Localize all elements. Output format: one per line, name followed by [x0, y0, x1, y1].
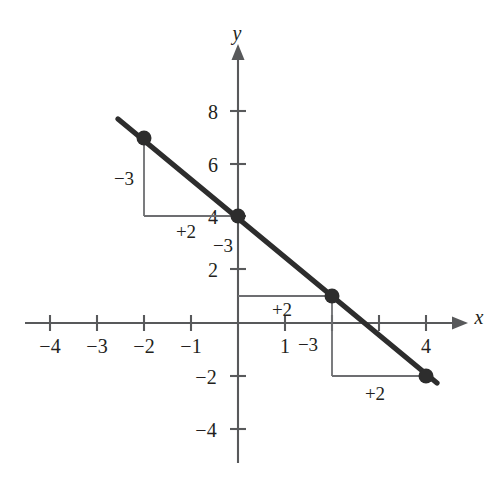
middle-rise-label: −3 — [213, 235, 233, 256]
data-point-0-4 — [231, 209, 246, 224]
x-tick-label-1: 1 — [280, 335, 290, 357]
y-tick-label-8: 8 — [208, 101, 218, 123]
plotted-line — [118, 119, 437, 383]
right-rise-label: −3 — [298, 334, 318, 355]
coordinate-plane-svg: x y −4 −3 −2 −1 1 4 8 — [0, 0, 503, 495]
graph-figure: x y −4 −3 −2 −1 1 4 8 — [0, 0, 503, 495]
x-axis-arrowhead — [452, 317, 468, 330]
data-point-2-1 — [325, 289, 340, 304]
data-point-neg2-7 — [137, 131, 152, 146]
right-run-label: +2 — [365, 383, 385, 404]
x-tick-label-neg1: −1 — [180, 335, 201, 357]
y-tick-label-neg4: −4 — [195, 419, 216, 441]
y-axis-label: y — [231, 22, 242, 45]
x-tick-label-4: 4 — [421, 335, 431, 357]
middle-run-label: +2 — [272, 299, 292, 320]
y-tick-label-4: 4 — [208, 206, 218, 228]
y-axis-arrowhead — [232, 44, 245, 60]
x-tick-label-neg3: −3 — [86, 335, 107, 357]
axes-group — [25, 44, 468, 463]
x-tick-label-neg2: −2 — [133, 335, 154, 357]
left-run-label: +2 — [176, 221, 196, 242]
y-tick-label-2: 2 — [208, 259, 218, 281]
left-rise-label: −3 — [114, 168, 134, 189]
x-tick-label-neg4: −4 — [39, 335, 60, 357]
y-tick-label-6: 6 — [208, 154, 218, 176]
y-tick-label-neg2: −2 — [195, 366, 216, 388]
data-point-4-neg2 — [419, 369, 434, 384]
x-axis-label: x — [474, 306, 484, 328]
